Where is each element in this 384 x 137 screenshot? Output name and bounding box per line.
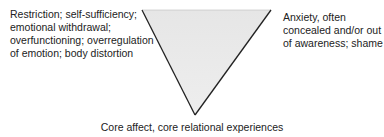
bottom-corner-label: Core affect, core relational experiences [0,121,384,134]
label-line: overfunctioning; overregulation [10,34,154,47]
top-left-corner-label: Restriction; self-sufficiency; emotional… [10,8,154,60]
label-line: emotional withdrawal; [10,21,154,34]
label-line: Core affect, core relational experiences [0,121,384,134]
label-line: of awareness; shame [283,37,383,50]
label-line: Anxiety, often [283,11,383,24]
label-line: of emotion; body distortion [10,47,154,60]
label-line: Restriction; self-sufficiency; [10,8,154,21]
top-right-corner-label: Anxiety, often concealed and/or out of a… [283,11,383,50]
label-line: concealed and/or out [283,24,383,37]
